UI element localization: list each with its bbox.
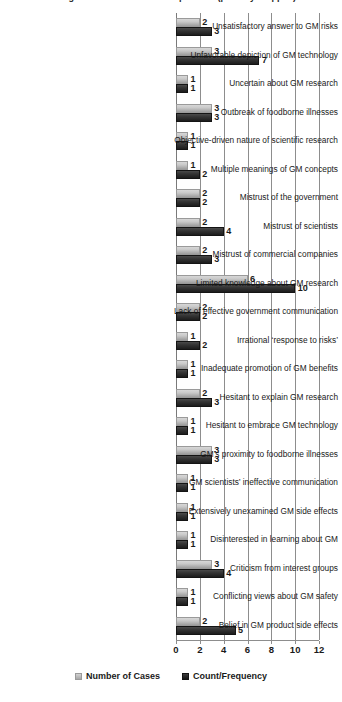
category-label: Mistrust of commercial companies [170, 249, 342, 259]
x-tick-label: 4 [212, 644, 236, 655]
category-label: Criticism from interest groups [170, 563, 342, 573]
x-tick-label: 10 [283, 644, 307, 655]
legend-label: Number of Cases [86, 671, 160, 681]
category-label: Hesitant to explain GM research [170, 392, 342, 402]
category-label: Extensively unexamined GM side effects [170, 506, 342, 516]
category-label: Mistrust of the government [170, 192, 342, 202]
x-tick-label: 0 [164, 644, 188, 655]
category-label: Hesitant to embrace GM technology [170, 420, 342, 430]
legend-item[interactable]: Count/Frequency [182, 671, 267, 681]
category-label: Disinterested in learning about GM [170, 534, 342, 544]
x-tick-label: 12 [307, 644, 331, 655]
legend-swatch-icon [75, 673, 82, 680]
category-label: Outbreak of foodborne illnesses [170, 107, 342, 117]
category-label: Unsatisfactory answer to GM risks [170, 21, 342, 31]
category-label: Conflicting views about GM safety [170, 591, 342, 601]
chart-title: Emergent themes and their frequencies (p… [0, 0, 342, 2]
category-label: Lack of effective government communicati… [170, 306, 342, 316]
x-tick-label: 2 [188, 644, 212, 655]
legend-label: Count/Frequency [193, 671, 267, 681]
category-label: Uncertain about GM research [170, 78, 342, 88]
bar-chart: Emergent themes and their frequencies (p… [0, 0, 342, 702]
category-label: Unfavorable depiction of GM technology [170, 50, 342, 60]
category-label: Inadequate promotion of GM benefits [170, 363, 342, 373]
category-label: Multiple meanings of GM concepts [170, 164, 342, 174]
category-label: GM’s proximity to foodborne illnesses [170, 449, 342, 459]
category-label: Belief in GM product side effects [170, 620, 342, 630]
chart-legend: Number of CasesCount/Frequency [0, 671, 342, 681]
legend-swatch-icon [182, 673, 189, 680]
legend-item[interactable]: Number of Cases [75, 671, 160, 681]
x-tick-label: 8 [259, 644, 283, 655]
category-label: Irrational ‘response to risks’ [170, 335, 342, 345]
category-label: Mistrust of scientists [170, 221, 342, 231]
category-label: Objective-driven nature of scientific re… [170, 135, 342, 145]
x-tick-label: 6 [236, 644, 260, 655]
category-label: GM scientists’ ineffective communication [170, 477, 342, 487]
category-label: Limited knowledge about GM research [170, 278, 342, 288]
